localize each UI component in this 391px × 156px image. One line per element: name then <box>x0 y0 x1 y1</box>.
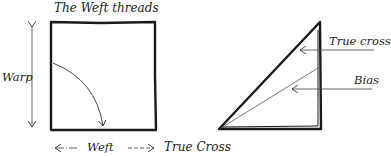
weft-label: Weft <box>87 140 114 154</box>
weft-threads-title: The Weft threads <box>54 1 159 15</box>
fabric-square <box>51 22 156 130</box>
true-cross-label-bottom: True Cross <box>164 140 231 154</box>
triangle-inner-edge <box>222 30 318 127</box>
fold-curve-arrow <box>53 63 103 126</box>
bias-label: Bias <box>354 73 379 87</box>
warp-label: Warp <box>2 70 33 84</box>
true-cross-label-right: True cross <box>329 34 391 48</box>
